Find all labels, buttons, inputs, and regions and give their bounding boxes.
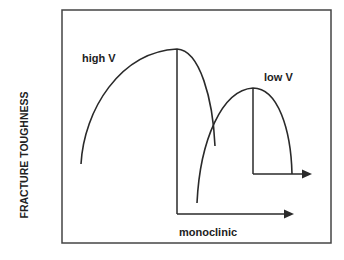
plot-frame: [62, 10, 331, 243]
low-v-curve: [197, 88, 292, 203]
monoclinic-label: monoclinic: [179, 226, 237, 238]
low-v-arrowhead-icon: [302, 170, 312, 179]
high-v-label: high V: [82, 52, 116, 64]
monoclinic-arrowhead-icon: [284, 210, 294, 219]
y-axis-label: FRACTURE TOUGHNESS: [18, 92, 30, 219]
fracture-toughness-diagram: FRACTURE TOUGHNESS high V low V monoclin…: [0, 0, 344, 260]
low-v-label: low V: [264, 71, 293, 83]
high-v-curve: [81, 49, 215, 164]
